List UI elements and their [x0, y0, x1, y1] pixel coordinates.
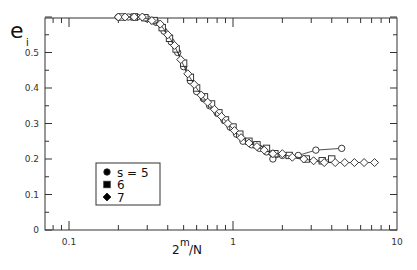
circle-marker [313, 147, 319, 153]
legend-label: 7 [117, 191, 125, 205]
data-series [114, 13, 378, 167]
diamond-marker [371, 159, 379, 167]
y-tick-label: 0.1 [25, 190, 39, 200]
y-tick-label: 0.2 [25, 154, 39, 164]
y-axis-label-subscript: i [26, 37, 29, 48]
plot-axes: 0.111000.10.20.30.40.5 [25, 17, 403, 247]
x-tick-label: 0.1 [62, 237, 76, 247]
y-tick-label: 0 [33, 225, 39, 235]
y-axis-label: e [10, 18, 24, 43]
legend: s = 567 [96, 163, 160, 205]
diamond-marker [310, 157, 318, 165]
diamond-marker [360, 159, 368, 167]
circle-marker [104, 169, 110, 175]
chart: 0.111000.10.20.30.40.5 s = 567 e i 2 m /… [0, 0, 417, 270]
circle-marker [338, 145, 344, 151]
y-tick-label: 0.5 [25, 48, 39, 58]
x-axis-label-tail: /N [189, 243, 202, 257]
x-tick-label: 1 [230, 237, 236, 247]
square-marker [104, 181, 110, 187]
y-tick-label: 0.4 [25, 83, 40, 93]
series-circle [115, 14, 345, 162]
series-square [119, 14, 335, 164]
series-diamond [114, 13, 378, 167]
x-axis-label: 2 [172, 243, 180, 257]
diamond-marker [341, 159, 349, 167]
y-tick-label: 0.3 [25, 119, 39, 129]
diamond-marker [350, 159, 358, 167]
series-line [122, 17, 332, 161]
x-tick-label: 10 [391, 237, 403, 247]
series-line [118, 17, 341, 159]
